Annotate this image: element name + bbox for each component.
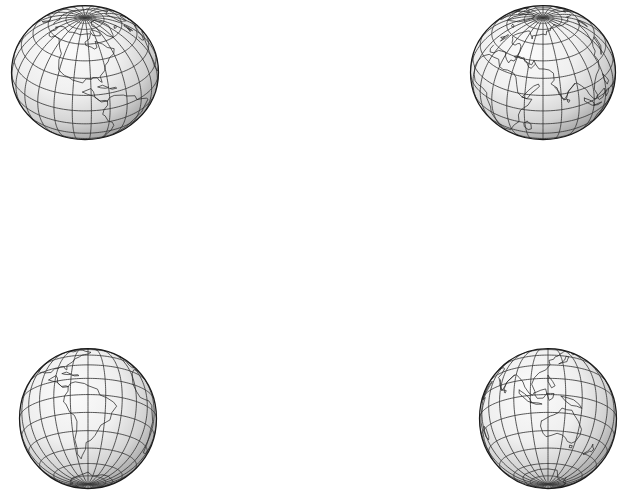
world-projection-figure: [0, 0, 619, 493]
globe-top-left[interactable]: [10, 4, 160, 141]
globe-bottom-right[interactable]: [478, 347, 618, 490]
globe-top-right[interactable]: [469, 4, 617, 141]
globe-bottom-left[interactable]: [18, 347, 158, 490]
interrupted-homolosine-map[interactable]: [95, 131, 558, 322]
